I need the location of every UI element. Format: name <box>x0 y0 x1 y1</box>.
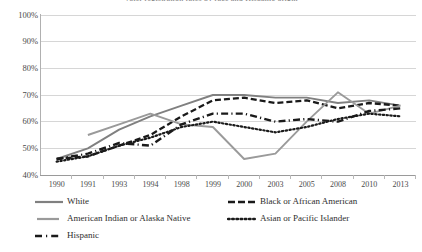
legend-label: Black or African American <box>260 196 357 207</box>
legend-item-hispanic[interactable]: Hispanic <box>34 230 227 241</box>
legend-row: American Indian or Alaska Native Asian o… <box>34 213 422 230</box>
x-tick-label: 2013 <box>385 178 416 192</box>
x-tick-label: 1998 <box>166 178 197 192</box>
x-tick-label: 1993 <box>104 178 135 192</box>
x-tick-label: 1990 <box>41 178 72 192</box>
legend-label: Asian or Pacific Islander <box>260 213 349 224</box>
legend-item-asian-or-pacific-islander[interactable]: Asian or Pacific Islander <box>227 213 422 224</box>
legend-label: American Indian or Alaska Native <box>67 213 190 224</box>
x-axis-labels: 1990 1991 1993 1994 1998 1999 2000 2003 … <box>41 178 416 192</box>
x-tick-label: 1999 <box>197 178 228 192</box>
x-tick-label: 2005 <box>291 178 322 192</box>
x-tick-label: 2008 <box>322 178 353 192</box>
series-line <box>57 114 401 162</box>
x-tick-label: 2003 <box>260 178 291 192</box>
legend-row: Hispanic <box>34 230 422 247</box>
legend-item-white[interactable]: White <box>34 196 227 207</box>
legend-item-american-indian-or-alaska-native[interactable]: American Indian or Alaska Native <box>34 213 227 224</box>
dash-dot-line-swatch <box>34 231 64 241</box>
series-line <box>57 108 401 159</box>
x-tick-label: 2010 <box>354 178 385 192</box>
x-tick-label: 1991 <box>72 178 103 192</box>
series-line <box>88 92 401 159</box>
x-tick-label: 2000 <box>229 178 260 192</box>
dotted-line-swatch <box>227 214 257 224</box>
legend-item-black-or-african-american[interactable]: Black or African American <box>227 196 422 207</box>
solid-line-swatch <box>34 197 64 207</box>
legend-label: White <box>67 196 89 207</box>
chart-legend: White Black or African American American… <box>34 196 422 248</box>
dashed-line-swatch <box>227 197 257 207</box>
line-chart: Voter registration rates by race and His… <box>0 0 422 252</box>
legend-row: White Black or African American <box>34 196 422 213</box>
solid-line-swatch <box>34 214 64 224</box>
legend-label: Hispanic <box>67 230 99 241</box>
x-tick-label: 1994 <box>135 178 166 192</box>
